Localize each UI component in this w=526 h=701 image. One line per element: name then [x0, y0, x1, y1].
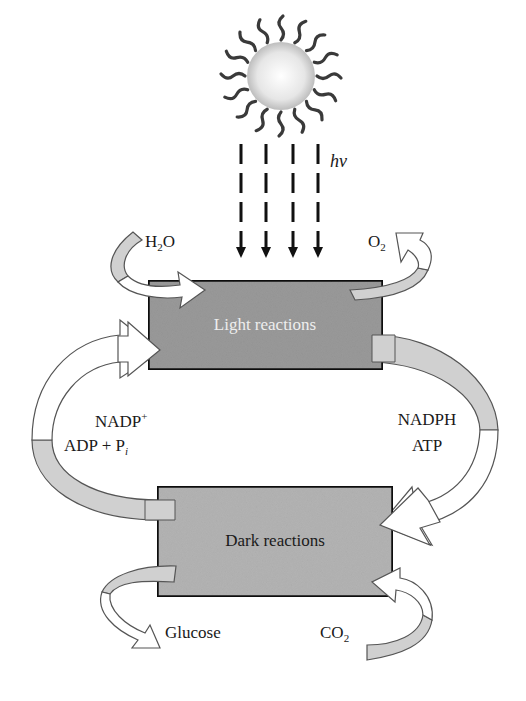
sun-icon — [221, 16, 341, 136]
light-energy-label: hν — [330, 152, 347, 170]
water-label: H2O — [145, 233, 175, 253]
light-ray-arrow-icon — [288, 144, 298, 258]
light-ray-arrow-icon — [261, 144, 271, 258]
light-rays — [236, 144, 323, 258]
oxygen-label: O2 — [368, 233, 386, 253]
oxygen-output-arrow-icon — [350, 233, 431, 300]
nadph-label: NADPH — [398, 411, 457, 428]
light-reactions-label: Light reactions — [214, 315, 316, 335]
atp-label: ATP — [412, 437, 442, 454]
nadp-tail-icon — [145, 500, 175, 520]
dark-reactions-label: Dark reactions — [225, 531, 325, 551]
light-ray-arrow-icon — [313, 144, 323, 258]
glucose-label: Glucose — [165, 624, 221, 641]
nadph-tail-icon — [372, 335, 395, 362]
nadp-label: NADP+ — [95, 411, 148, 430]
co2-input-arrow-icon — [367, 568, 432, 660]
co2-label: CO2 — [320, 624, 349, 644]
light-ray-arrow-icon — [236, 144, 246, 258]
adp-pi-label: ADP + Pi — [64, 437, 128, 457]
photosynthesis-diagram — [0, 0, 526, 701]
